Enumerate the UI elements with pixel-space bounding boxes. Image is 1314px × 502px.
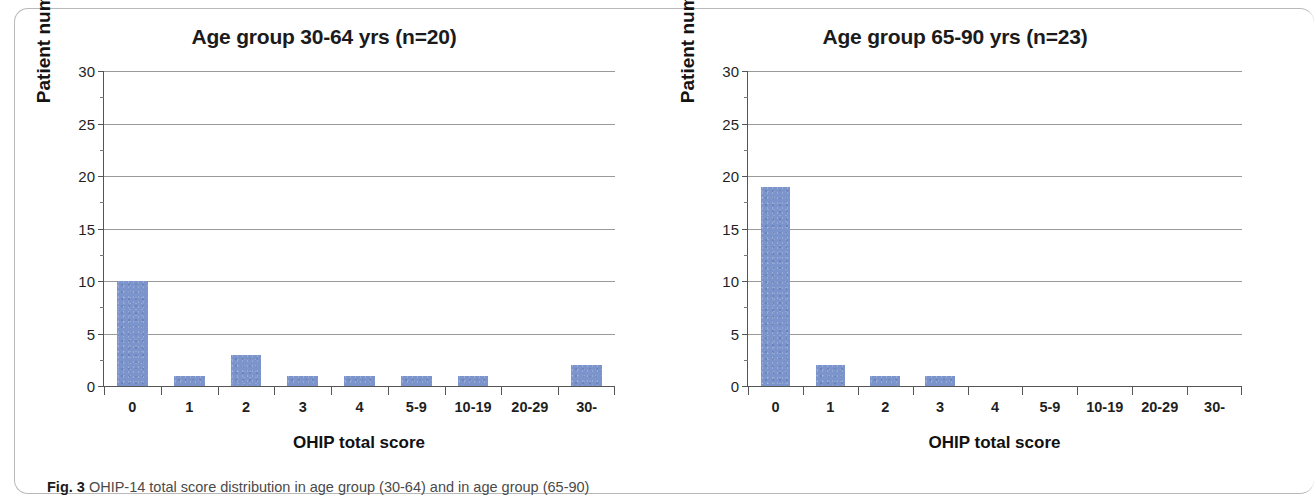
bar	[174, 376, 205, 387]
bar-slot	[803, 71, 858, 386]
bar-slot	[331, 71, 388, 386]
bar	[761, 187, 791, 387]
x-tick-label: 5-9	[1022, 399, 1077, 415]
x-tick-label: 1	[803, 399, 858, 415]
x-tick-mark	[968, 386, 1023, 395]
bar	[870, 376, 900, 387]
y-tick-label: 10	[722, 273, 739, 290]
x-tick-mark	[1132, 386, 1187, 395]
x-tick-label: 20-29	[501, 399, 558, 415]
x-tick-mark	[748, 386, 803, 395]
bar-slot	[1077, 71, 1132, 386]
chart-age-group-65-90: Age group 65-90 yrs (n=23) Patient numbe…	[633, 9, 1251, 455]
bar	[816, 365, 846, 386]
x-tick-label: 4	[331, 399, 388, 415]
x-tick-mark	[104, 386, 161, 395]
y-tick-label: 30	[78, 63, 95, 80]
x-tick-label: 0	[104, 399, 161, 415]
bar-slot	[858, 71, 913, 386]
bar-slot	[218, 71, 275, 386]
x-tick-label: 20-29	[1132, 399, 1187, 415]
y-tick-label: 25	[722, 115, 739, 132]
x-tick-mark	[803, 386, 858, 395]
plot-area-left: 012345-910-1920-2930-	[103, 71, 615, 386]
chart-title-left: Age group 30-64 yrs (n=20)	[15, 25, 633, 49]
chart-age-group-30-64: Age group 30-64 yrs (n=20) Patient numbe…	[15, 9, 633, 455]
x-tick-mark	[1022, 386, 1077, 395]
x-tick-label: 4	[968, 399, 1023, 415]
bar-slot	[1132, 71, 1187, 386]
x-tick-mark	[161, 386, 218, 395]
y-tick-label: 10	[78, 273, 95, 290]
y-axis-title-right: Patient number	[677, 0, 699, 134]
bar-slot	[1187, 71, 1242, 386]
x-tick-mark	[558, 386, 615, 395]
bar-slot	[274, 71, 331, 386]
y-axis-tick-labels-left: 302520151050	[59, 71, 95, 386]
x-tick-mark	[501, 386, 558, 395]
x-tick-mark	[858, 386, 913, 395]
bars-right	[748, 71, 1242, 386]
x-tick-mark	[218, 386, 275, 395]
x-tick-label: 1	[161, 399, 218, 415]
bars-left	[104, 71, 615, 386]
x-axis-title-left: OHIP total score	[103, 433, 615, 453]
x-tick-label: 0	[748, 399, 803, 415]
y-tick-label: 15	[78, 220, 95, 237]
bar-slot	[501, 71, 558, 386]
chart-title-right: Age group 65-90 yrs (n=23)	[633, 25, 1251, 49]
x-tick-label: 10-19	[445, 399, 502, 415]
y-tick-label: 15	[722, 220, 739, 237]
x-tick-mark	[274, 386, 331, 395]
x-tick-mark-end	[1241, 386, 1242, 395]
x-tick-label: 30-	[1187, 399, 1242, 415]
x-tick-mark-end	[614, 386, 615, 395]
x-tick-mark	[445, 386, 502, 395]
bar-slot	[161, 71, 218, 386]
x-tick-label: 30-	[558, 399, 615, 415]
figure-caption-text: OHIP-14 total score distribution in age …	[89, 479, 590, 495]
x-tick-label: 5-9	[388, 399, 445, 415]
y-axis-tick-labels-right: 302520151050	[703, 71, 739, 386]
bar	[231, 355, 262, 387]
x-tick-label: 3	[913, 399, 968, 415]
plot-area-right: 012345-910-1920-2930-	[747, 71, 1242, 386]
bar-slot	[388, 71, 445, 386]
y-tick-label: 30	[722, 63, 739, 80]
y-tick-label: 0	[731, 378, 739, 395]
charts-row: Age group 30-64 yrs (n=20) Patient numbe…	[15, 9, 1252, 455]
bar	[571, 365, 602, 386]
x-axis-ticks-right	[748, 386, 1242, 395]
x-tick-mark	[331, 386, 388, 395]
figure-caption: Fig. 3 OHIP-14 total score distribution …	[47, 479, 1227, 495]
figure-panel: Age group 30-64 yrs (n=20) Patient numbe…	[14, 8, 1314, 494]
bar	[458, 376, 489, 387]
x-tick-mark	[913, 386, 968, 395]
bar-slot	[558, 71, 615, 386]
x-tick-label: 10-19	[1077, 399, 1132, 415]
bar	[117, 281, 148, 386]
x-tick-mark	[1077, 386, 1132, 395]
y-tick-label: 20	[78, 168, 95, 185]
bar	[401, 376, 432, 387]
x-axis-tick-labels-right: 012345-910-1920-2930-	[748, 399, 1242, 415]
bar-slot	[968, 71, 1023, 386]
bar-slot	[445, 71, 502, 386]
bar	[344, 376, 375, 387]
y-tick-label: 5	[731, 325, 739, 342]
bar-slot	[913, 71, 968, 386]
bar-slot	[104, 71, 161, 386]
bar	[925, 376, 955, 387]
x-tick-label: 2	[218, 399, 275, 415]
x-axis-title-right: OHIP total score	[747, 433, 1242, 453]
x-tick-label: 2	[858, 399, 913, 415]
x-tick-mark	[388, 386, 445, 395]
y-tick-label: 5	[87, 325, 95, 342]
figure-caption-label: Fig. 3	[47, 479, 85, 495]
bar-slot	[1022, 71, 1077, 386]
x-tick-label: 3	[274, 399, 331, 415]
y-tick-label: 20	[722, 168, 739, 185]
bar-slot	[748, 71, 803, 386]
y-axis-title-left: Patient number	[33, 0, 55, 134]
x-axis-ticks-left	[104, 386, 615, 395]
